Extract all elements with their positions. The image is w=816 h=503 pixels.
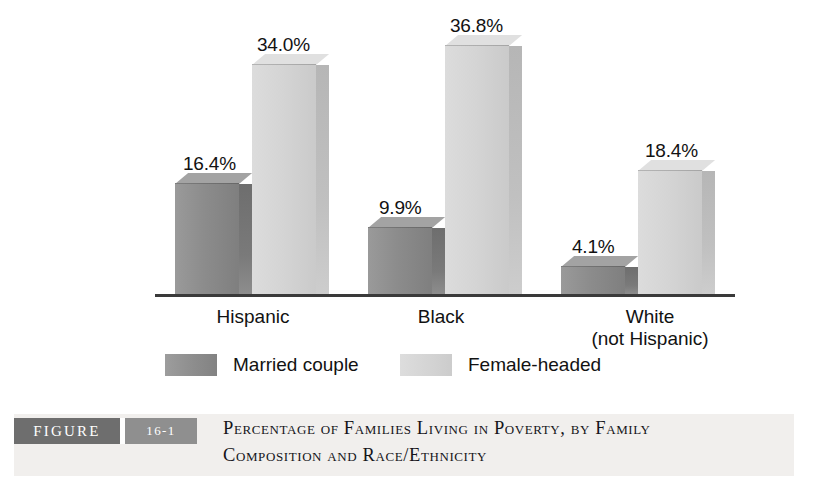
caption-line-2: Composition and Race/Ethnicity: [223, 442, 650, 469]
bar-hispanic-married: [175, 184, 239, 295]
category-label-black: Black: [386, 306, 496, 328]
bar-white-married: [561, 267, 625, 295]
plot-area: 16.4% 34.0% 9.9% 36.8% 4.1%: [155, 10, 735, 295]
legend-label: Married couple: [233, 354, 359, 376]
bar-front-face: [368, 227, 432, 295]
category-label-line: (not Hispanic): [570, 328, 730, 350]
bar-front-face: [638, 170, 702, 295]
bar-side-face: [316, 65, 329, 295]
category-label-line: Hispanic: [188, 306, 318, 328]
figure-word-badge: FIGURE: [14, 418, 120, 444]
legend-label: Female-headed: [468, 354, 601, 376]
legend-item-married-couple: Married couple: [165, 354, 359, 376]
bar-front-face: [252, 64, 316, 295]
category-label-white: White (not Hispanic): [570, 306, 730, 351]
bar-value-white-married: 4.1%: [572, 236, 615, 258]
bar-front-face: [175, 183, 239, 295]
bar-value-black-female: 36.8%: [450, 15, 503, 37]
category-label-line: Black: [386, 306, 496, 328]
bar-white-female: [638, 171, 702, 295]
bar-side-face: [239, 184, 252, 295]
bar-value-hispanic-female: 34.0%: [257, 34, 310, 56]
bar-front-face: [561, 266, 625, 295]
category-label-hispanic: Hispanic: [188, 306, 318, 328]
bar-black-female: [445, 46, 509, 295]
chart-figure: 16.4% 34.0% 9.9% 36.8% 4.1%: [0, 0, 816, 400]
caption-line-1: Percentage of Families Living in Poverty…: [223, 415, 650, 442]
bar-value-white-female: 18.4%: [645, 140, 698, 162]
category-label-line: White: [570, 306, 730, 328]
bar-side-face: [509, 46, 522, 295]
figure-caption-text: Percentage of Families Living in Poverty…: [223, 415, 650, 469]
chart-legend: Married couple Female-headed: [0, 352, 816, 386]
bar-value-black-married: 9.9%: [379, 197, 422, 219]
legend-swatch-icon: [165, 354, 217, 376]
legend-swatch-icon: [400, 354, 452, 376]
bar-front-face: [445, 45, 509, 295]
x-axis-line: [155, 294, 735, 297]
figure-caption-bar: FIGURE 16-1 Percentage of Families Livin…: [14, 414, 794, 476]
bar-side-face: [625, 267, 638, 295]
legend-item-female-headed: Female-headed: [400, 354, 601, 376]
bar-side-face: [702, 171, 715, 295]
bar-hispanic-female: [252, 65, 316, 295]
bar-value-hispanic-married: 16.4%: [183, 153, 236, 175]
bar-black-married: [368, 228, 432, 295]
figure-number-badge: 16-1: [125, 418, 197, 444]
bar-side-face: [432, 228, 445, 295]
